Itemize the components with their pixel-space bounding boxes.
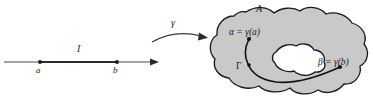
label-mapping-gamma: γ bbox=[171, 18, 175, 28]
label-interval-I: I bbox=[77, 44, 80, 54]
point-bigGamma-marker bbox=[247, 63, 250, 66]
domain-axis-group bbox=[4, 59, 159, 66]
region-group bbox=[210, 7, 367, 93]
figure-canvas: a b I γ A α = γ(a) β = γ(b) Γ bbox=[0, 0, 373, 101]
point-alpha-dot bbox=[247, 37, 251, 41]
gamma-arrow-curve bbox=[152, 34, 201, 42]
gamma-arrowhead bbox=[198, 33, 208, 41]
mapping-arrow-group bbox=[152, 33, 208, 43]
label-point-b: b bbox=[113, 66, 118, 75]
label-region-A: A bbox=[256, 4, 262, 14]
diagram-svg bbox=[0, 0, 373, 101]
label-point-a: a bbox=[36, 66, 41, 75]
point-a-dot bbox=[38, 60, 42, 64]
label-beta-equals-gamma-b: β = γ(b) bbox=[318, 58, 349, 68]
real-line-arrowhead bbox=[150, 59, 159, 66]
label-curve-bigGamma: Γ bbox=[236, 62, 242, 72]
point-b-dot bbox=[115, 60, 119, 64]
label-alpha-equals-gamma-a: α = γ(a) bbox=[229, 28, 260, 38]
